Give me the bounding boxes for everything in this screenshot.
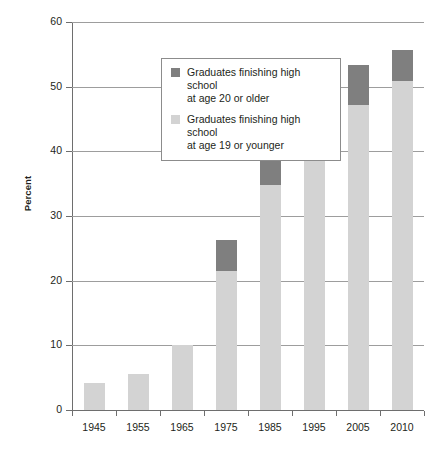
plot-area: 0102030405060 19451955196519751985199520… xyxy=(72,22,424,410)
legend-swatch-dark-icon xyxy=(171,68,180,77)
legend-label-line2: at age 19 or younger xyxy=(187,139,284,151)
gridline-10 xyxy=(72,345,424,346)
bar-segment-low-2005 xyxy=(348,105,369,410)
y-tick-20 xyxy=(66,281,72,282)
gridline-30 xyxy=(72,216,424,217)
x-tick-1975 xyxy=(248,411,249,416)
bar-segment-low-1995 xyxy=(304,117,325,410)
x-tick-origin xyxy=(72,411,73,416)
bar-1965 xyxy=(172,345,193,410)
y-tick-30 xyxy=(66,216,72,217)
bar-segment-low-1965 xyxy=(172,345,193,410)
legend-label-age-19-or-younger: Graduates finishing high school at age 1… xyxy=(187,113,331,152)
y-tick-10 xyxy=(66,345,72,346)
bar-1945 xyxy=(84,383,105,410)
x-tick-1995 xyxy=(336,411,337,416)
y-tick-50 xyxy=(66,87,72,88)
bar-1985 xyxy=(260,159,281,410)
x-tick-1965 xyxy=(204,411,205,416)
y-tick-label-50: 50 xyxy=(32,81,62,92)
bar-1955 xyxy=(128,374,149,410)
y-tick-label-10: 10 xyxy=(32,339,62,350)
bar-2005 xyxy=(348,65,369,410)
legend-label-line1: Graduates finishing high school xyxy=(187,66,300,91)
y-tick-label-0: 0 xyxy=(32,404,62,415)
y-tick-label-20: 20 xyxy=(32,275,62,286)
legend-label-line1: Graduates finishing high school xyxy=(187,113,300,138)
bar-segment-low-1975 xyxy=(216,271,237,410)
bar-segment-high-1975 xyxy=(216,240,237,271)
y-tick-label-60: 60 xyxy=(32,16,62,27)
x-tick-2005 xyxy=(380,411,381,416)
x-tick-1985 xyxy=(292,411,293,416)
gridline-20 xyxy=(72,281,424,282)
x-tick-1955 xyxy=(160,411,161,416)
x-tick-2010 xyxy=(424,411,425,416)
bar-segment-high-2010 xyxy=(392,50,413,80)
x-tick-label-2010: 2010 xyxy=(374,422,430,433)
y-tick-label-40: 40 xyxy=(32,145,62,156)
bar-segment-low-2010 xyxy=(392,81,413,410)
bar-segment-low-1955 xyxy=(128,374,149,410)
chart-legend: Graduates finishing high school at age 2… xyxy=(161,58,341,161)
y-tick-40 xyxy=(66,151,72,152)
bar-segment-high-2005 xyxy=(348,65,369,105)
legend-label-age-20-or-older: Graduates finishing high school at age 2… xyxy=(187,66,331,105)
bar-1975 xyxy=(216,240,237,410)
x-tick-1945 xyxy=(116,411,117,416)
y-tick-label-30: 30 xyxy=(32,210,62,221)
stacked-bar-chart: Percent 0102030405060 194519551965197519… xyxy=(0,0,448,453)
legend-item-age-20-or-older: Graduates finishing high school at age 2… xyxy=(171,66,331,105)
bar-2010 xyxy=(392,50,413,410)
legend-item-age-19-or-younger: Graduates finishing high school at age 1… xyxy=(171,113,331,152)
bar-segment-low-1945 xyxy=(84,383,105,410)
bar-segment-low-1985 xyxy=(260,185,281,410)
bar-segment-high-1985 xyxy=(260,159,281,185)
y-tick-60 xyxy=(66,22,72,23)
y-axis-title: Percent xyxy=(22,159,33,229)
gridline-60 xyxy=(72,22,424,23)
legend-swatch-light-icon xyxy=(171,115,180,124)
legend-label-line2: at age 20 or older xyxy=(187,92,269,104)
